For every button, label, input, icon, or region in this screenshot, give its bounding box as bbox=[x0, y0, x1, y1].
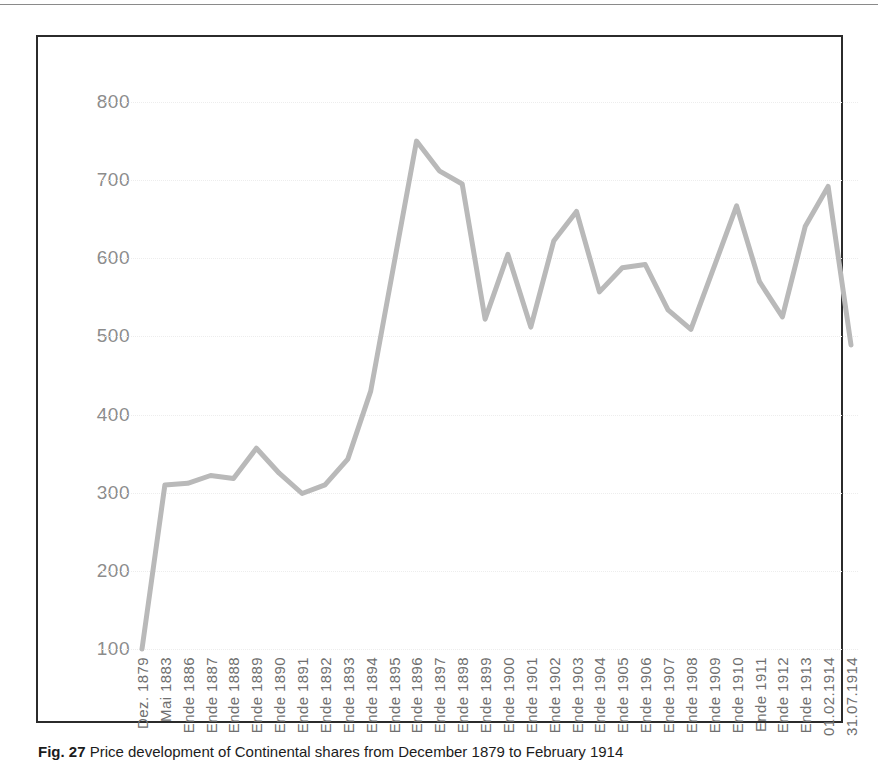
x-tick-label: Ende 1888 bbox=[225, 657, 242, 733]
x-tick-label: Ende 1908 bbox=[683, 657, 700, 733]
x-tick-label: Ende 1912 bbox=[774, 657, 791, 733]
x-tick-label: Ende 1898 bbox=[454, 657, 471, 733]
x-tick-label: Ende 1900 bbox=[500, 657, 517, 733]
x-tick-label: Ende 1892 bbox=[317, 657, 334, 733]
x-tick-label: Ende 1901 bbox=[523, 657, 540, 733]
x-tick-label: Ende 1893 bbox=[340, 657, 357, 733]
caption-label: Fig. 27 bbox=[38, 743, 86, 760]
x-tick-label: Dez. 1879 bbox=[134, 657, 151, 729]
x-tick-label: 31.07.1914 bbox=[843, 657, 860, 736]
x-tick-label: Ende 1903 bbox=[569, 657, 586, 733]
x-tick-label: Ende 1902 bbox=[546, 657, 563, 733]
figure-caption: Fig. 27 Price development of Continental… bbox=[38, 742, 848, 761]
x-tick-label: Mai 1883 bbox=[157, 657, 174, 722]
x-tick-label: Ende 1906 bbox=[637, 657, 654, 733]
x-tick-label: 01.02.1914 bbox=[820, 657, 837, 736]
figure-frame: 800700600500400300200100 Dez. 1879Mai 18… bbox=[36, 35, 843, 723]
x-tick-label: Ende 1907 bbox=[660, 657, 677, 733]
x-tick-label: Ende 1890 bbox=[271, 657, 288, 733]
x-axis: Dez. 1879Mai 1883Ende 1886Ende 1887Ende … bbox=[38, 37, 845, 725]
x-tick-label: Ende 1905 bbox=[614, 657, 631, 733]
x-tick-label: Ende 1891 bbox=[294, 657, 311, 733]
x-tick-label: Ende 1889 bbox=[248, 657, 265, 733]
x-tick-label: Ende 1897 bbox=[431, 657, 448, 733]
x-tick-label: Ende 1910 bbox=[729, 657, 746, 733]
x-tick-label: Ende 1896 bbox=[408, 657, 425, 733]
x-tick-label: Ende 1895 bbox=[386, 657, 403, 733]
x-tick-label: Ende 1886 bbox=[180, 657, 197, 733]
x-tick-label: Ende 1909 bbox=[706, 657, 723, 733]
x-tick-label: Ende 1899 bbox=[477, 657, 494, 733]
x-tick-label: Ende 1894 bbox=[363, 657, 380, 733]
x-tick-label: Ende 1887 bbox=[203, 657, 220, 733]
x-tick-label: Ende 1904 bbox=[591, 657, 608, 733]
x-tick-label: Ende 1911 bbox=[752, 657, 769, 732]
x-tick-label: Ende 1913 bbox=[797, 657, 814, 733]
caption-text: Price development of Continental shares … bbox=[90, 743, 624, 760]
page-top-rule bbox=[0, 4, 878, 5]
